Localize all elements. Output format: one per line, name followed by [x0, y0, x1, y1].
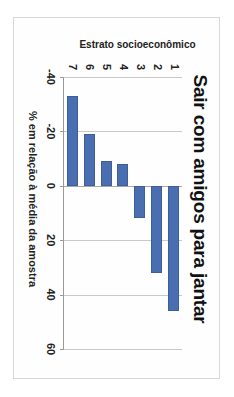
- gridline: [64, 294, 182, 295]
- value-tick-label: 20: [45, 223, 57, 257]
- value-tick-label: 60: [45, 332, 57, 366]
- value-tick-label: 40: [45, 277, 57, 311]
- gridline: [64, 240, 182, 241]
- chart-title: Sair com amigos para jantar: [189, 21, 211, 377]
- value-tick-label: 0: [45, 168, 57, 202]
- bar: [101, 161, 112, 185]
- bar: [168, 185, 179, 310]
- value-tick-label: -40: [45, 60, 57, 94]
- category-tick-label: 1: [169, 61, 181, 73]
- value-tick-label: -20: [45, 114, 57, 148]
- tick-mark: [60, 77, 64, 78]
- tick-mark: [60, 294, 64, 295]
- category-axis-title: Estrato socioeconômico: [63, 38, 213, 49]
- gridline: [64, 77, 182, 78]
- bar: [84, 134, 95, 186]
- bar: [67, 96, 78, 186]
- category-tick-label: 2: [152, 61, 164, 73]
- bar: [134, 185, 145, 218]
- bar: [151, 185, 162, 272]
- category-tick-label: 5: [101, 61, 113, 73]
- value-axis-line: [63, 77, 64, 349]
- bar: [118, 164, 129, 186]
- gridline: [64, 349, 182, 350]
- figure-frame: Sair com amigos para jantar 6040200-20-4…: [0, 0, 234, 397]
- category-tick-label: 7: [67, 61, 79, 73]
- tick-mark: [60, 240, 64, 241]
- chart-rotation-wrapper: Sair com amigos para jantar 6040200-20-4…: [19, 21, 215, 377]
- plot-area: [64, 77, 182, 349]
- bar-chart: Sair com amigos para jantar 6040200-20-4…: [19, 21, 215, 377]
- tick-mark: [60, 185, 64, 186]
- value-axis-title: % em relação à média da amostra: [27, 21, 39, 377]
- gridline: [64, 131, 182, 132]
- category-tick-label: 3: [135, 61, 147, 73]
- category-tick-label: 6: [84, 61, 96, 73]
- tick-mark: [60, 131, 64, 132]
- category-tick-label: 4: [118, 61, 130, 73]
- tick-mark: [60, 349, 64, 350]
